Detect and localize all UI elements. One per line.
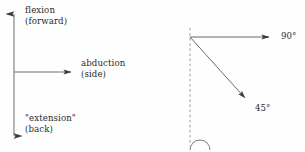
extension-label-primary: "extension" — [25, 113, 76, 124]
flexion-label: flexion (forward) — [25, 5, 67, 27]
ninety-degree-label: 90° — [281, 31, 296, 41]
flexion-label-primary: flexion — [25, 5, 67, 16]
right-angle-group — [190, 28, 269, 150]
figure-root: flexion (forward) abduction (side) "exte… — [0, 0, 305, 152]
abduction-label: abduction (side) — [81, 58, 125, 80]
abduction-label-secondary: (side) — [81, 69, 125, 80]
abduction-label-primary: abduction — [81, 58, 125, 69]
flexion-label-secondary: (forward) — [25, 16, 67, 27]
forty-five-degree-label: 45° — [255, 103, 270, 113]
extension-label-secondary: (back) — [25, 124, 76, 135]
extension-label: "extension" (back) — [25, 113, 76, 135]
forty-five-degree-ray — [190, 37, 245, 98]
zero-degree-arc-marker — [190, 140, 210, 150]
